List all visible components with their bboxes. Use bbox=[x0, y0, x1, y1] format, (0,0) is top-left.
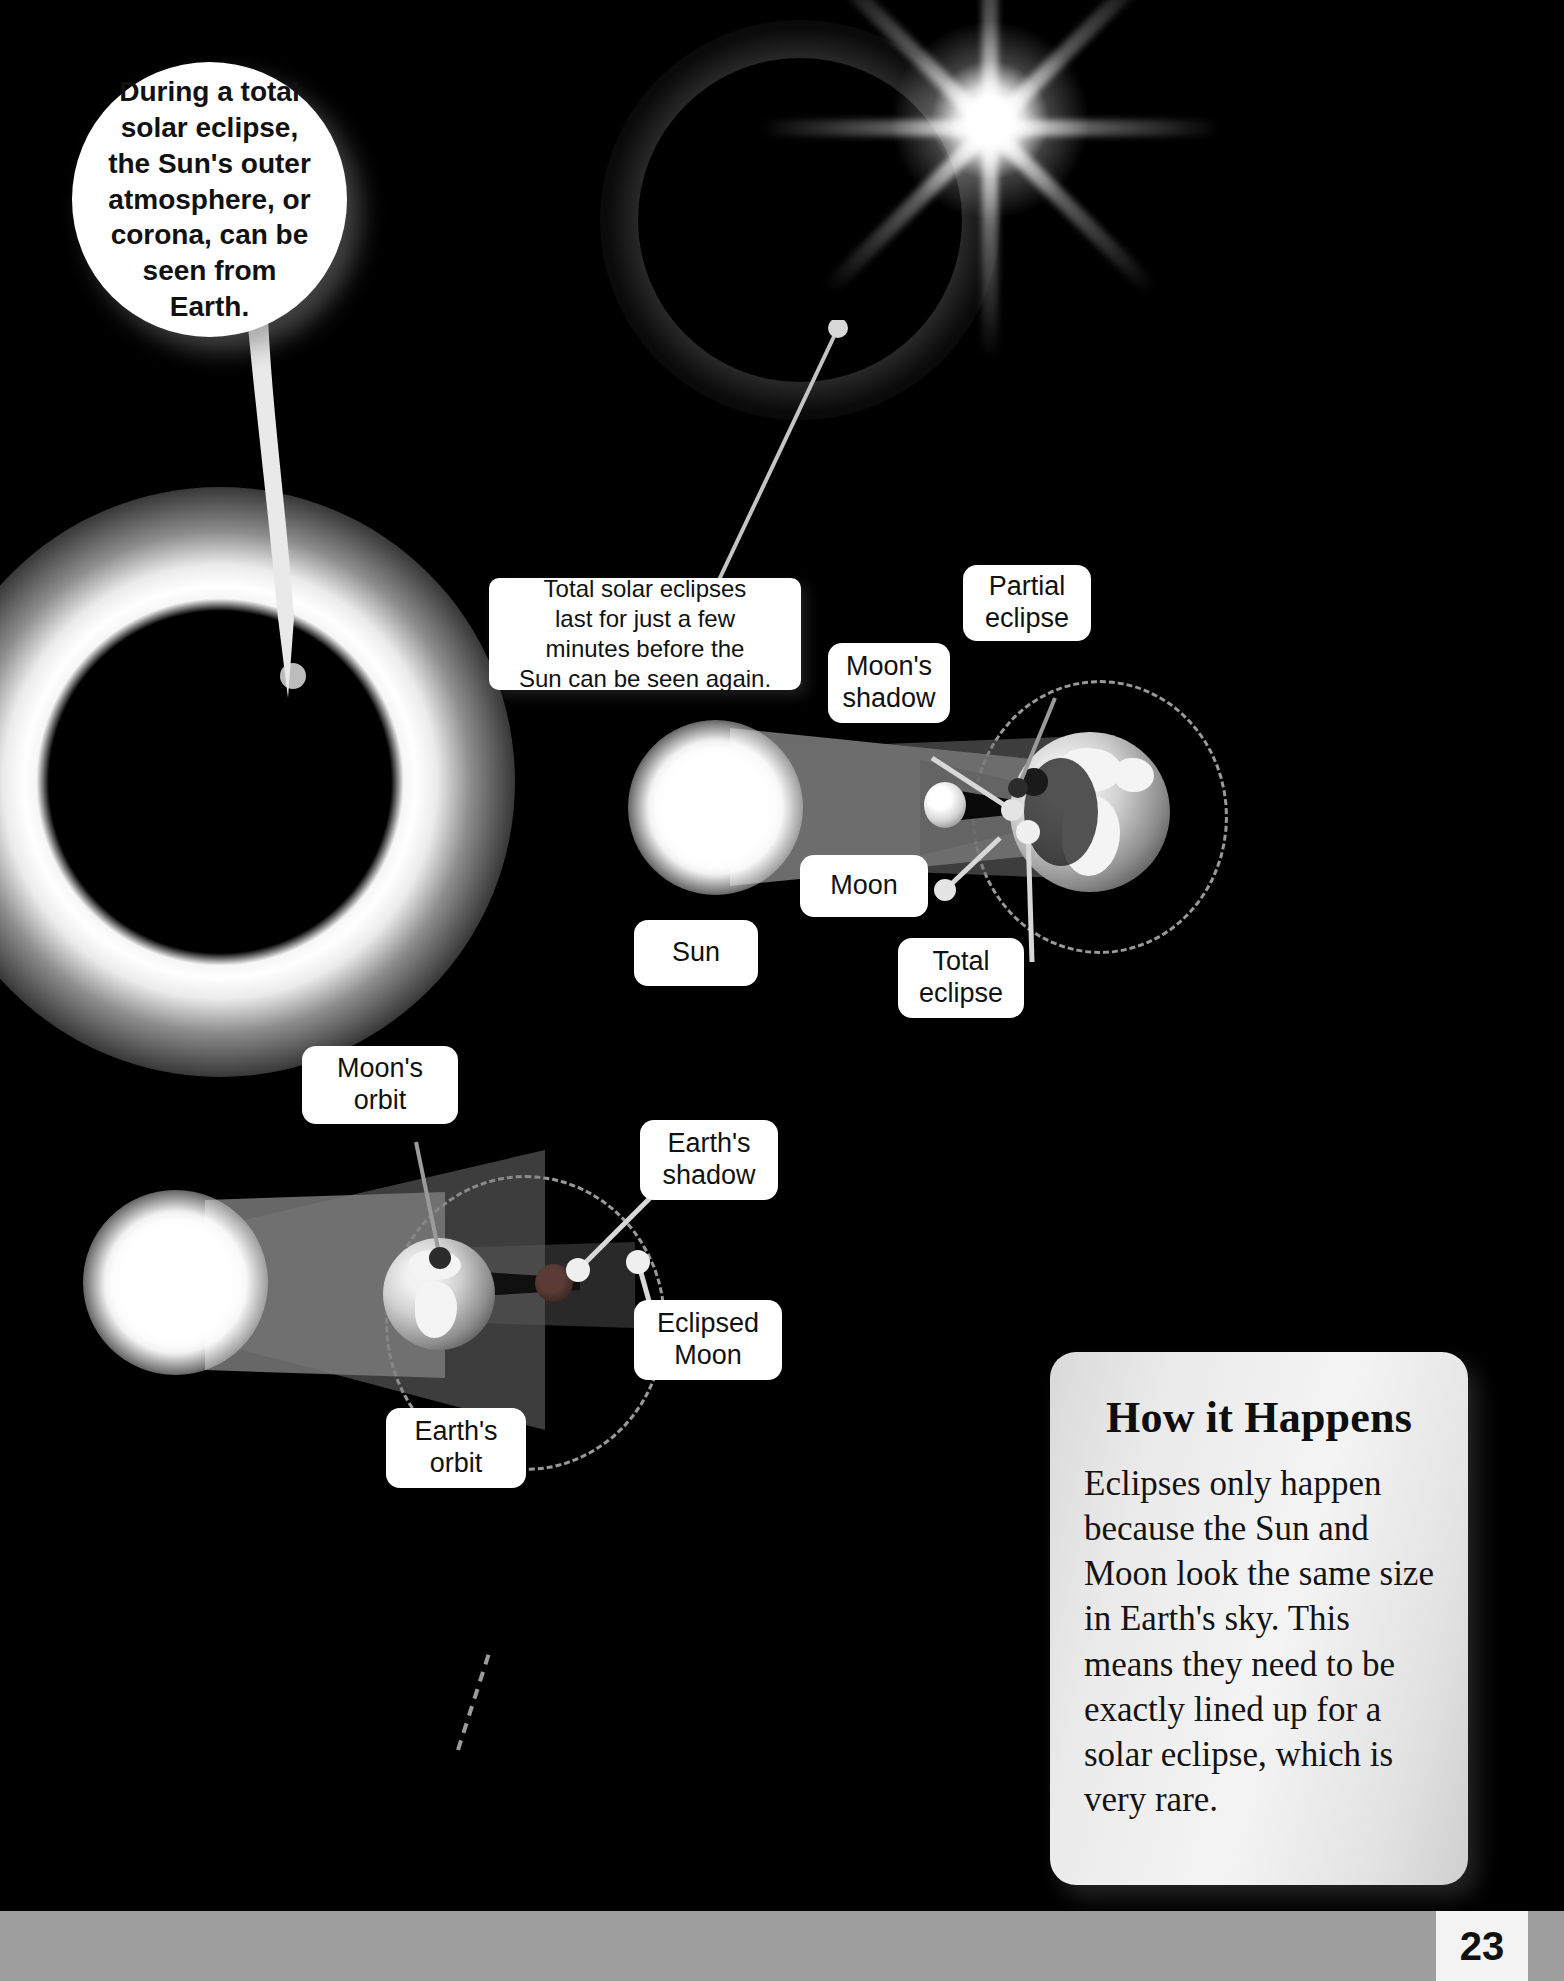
speech-bubble-tail bbox=[238, 318, 298, 698]
label-moon: Moon bbox=[800, 855, 928, 917]
label-partial-eclipse: Partial eclipse bbox=[963, 565, 1091, 641]
diamond-ring-flare bbox=[890, 20, 1090, 220]
label-earths-shadow: Earth's shadow bbox=[640, 1120, 778, 1200]
rect-callout-leader bbox=[690, 320, 850, 590]
label-earths-orbit: Earth's orbit bbox=[386, 1408, 526, 1488]
how-it-happens-panel: How it Happens Eclipses only happen beca… bbox=[1050, 1352, 1468, 1885]
label-moons-orbit: Moon's orbit bbox=[302, 1046, 458, 1124]
page-number: 23 bbox=[1436, 1911, 1528, 1981]
label-eclipsed-moon: Eclipsed Moon bbox=[634, 1300, 782, 1380]
eclipse-page: During a total solar eclipse, the Sun's … bbox=[0, 0, 1564, 1981]
how-it-happens-title: How it Happens bbox=[1084, 1392, 1434, 1443]
corona-speech-bubble: During a total solar eclipse, the Sun's … bbox=[72, 62, 347, 337]
label-total-eclipse: Total eclipse bbox=[898, 938, 1024, 1018]
sun-graphic bbox=[83, 1190, 268, 1375]
moon-disc bbox=[99, 661, 341, 903]
corona-speech-bubble-text: During a total solar eclipse, the Sun's … bbox=[78, 74, 341, 325]
eclipse-duration-callout: Total solar eclipses last for just a few… bbox=[489, 578, 801, 690]
how-it-happens-body: Eclipses only happen because the Sun and… bbox=[1084, 1461, 1434, 1822]
label-sun: Sun bbox=[634, 920, 758, 986]
label-moons-shadow: Moon's shadow bbox=[828, 643, 950, 723]
page-footer-bar bbox=[0, 1911, 1564, 1981]
